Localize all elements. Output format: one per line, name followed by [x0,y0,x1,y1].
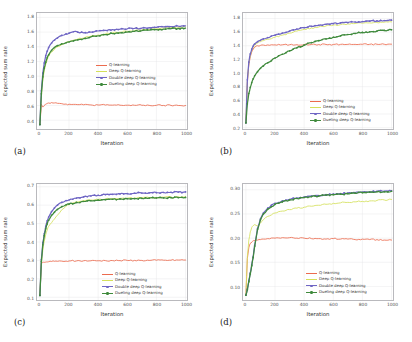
y-tick-label: 0.15 [210,260,240,265]
x-axis-label: Iteration [242,140,394,146]
panel-a: Expected sum rate0.40.60.81.01.21.41.61.… [0,0,206,171]
y-tick-label: 1.6 [210,29,240,34]
x-tick-label: 0 [244,302,247,307]
legend-label: Dueling deep Q-learning [323,117,371,123]
x-tick-label: 1000 [387,131,398,136]
x-axis-label: Iteration [242,311,394,317]
y-tick-label: 0.30 [210,186,240,191]
y-tick-label: 1.8 [210,15,240,20]
series-line-q-learning [40,103,186,125]
y-tick-label: 0.4 [4,240,34,245]
x-tick-label: 0 [38,302,41,307]
x-tick-label: 200 [64,302,72,307]
y-tick-label: 0.4 [210,112,240,117]
x-tick-label: 800 [359,131,367,136]
panel-letter: (b) [220,146,232,156]
plot-a: Expected sum rate0.40.60.81.01.21.41.61.… [0,0,206,171]
legend-item: Dueling deep Q-learning [306,289,367,295]
legend-item: Dueling deep Q-learning [310,117,371,123]
y-tick-label: 0.10 [210,285,240,290]
legend-label: Dueling deep Q-learning [319,289,367,295]
y-axis-ticks: 0.10.20.30.40.50.60.7 [0,183,34,301]
legend: Q-learningDeep Q-learningDouble deep Q-l… [306,270,367,296]
x-tick-label: 600 [123,131,131,136]
legend: Q-learningDeep Q-learningDouble deep Q-l… [96,62,157,88]
y-tick-label: 1.0 [4,74,34,79]
legend-swatch-icon [306,289,317,295]
legend: Q-learningDeep Q-learningDouble deep Q-l… [310,98,371,124]
y-tick-label: 1.0 [210,71,240,76]
y-tick-label: 0.25 [210,211,240,216]
x-tick-label: 200 [64,131,72,136]
x-tick-label: 800 [153,131,161,136]
y-axis-ticks: 0.20.40.60.81.01.21.41.61.8 [206,12,240,130]
x-tick-label: 800 [359,302,367,307]
y-tick-label: 0.20 [210,236,240,241]
legend-label: Dueling deep Q-learning [115,290,163,296]
plot-b: Expected sum rate0.20.40.60.81.01.21.41.… [206,0,412,171]
panel-c: Expected sum rate0.10.20.30.40.50.60.702… [0,171,206,342]
y-axis-ticks: 0.100.150.200.250.30 [206,183,240,301]
x-tick-label: 600 [329,131,337,136]
y-tick-label: 1.2 [4,59,34,64]
panel-d: Expected sum rate0.100.150.200.250.30020… [206,171,412,342]
legend-item: Dueling deep Q-learning [96,81,157,87]
x-axis-label: Iteration [36,311,188,317]
panel-letter: (d) [220,317,232,327]
x-axis-ticks: 02004006008001000 [242,302,394,310]
x-tick-label: 1000 [181,302,192,307]
y-tick-label: 0.2 [4,277,34,282]
y-tick-label: 0.4 [4,119,34,124]
y-tick-label: 0.6 [4,104,34,109]
x-tick-label: 400 [300,302,308,307]
panel-letter: (c) [14,317,25,327]
x-tick-label: 400 [300,131,308,136]
x-axis-ticks: 02004006008001000 [36,131,188,139]
x-axis-ticks: 02004006008001000 [36,302,188,310]
y-tick-label: 1.4 [210,43,240,48]
x-tick-label: 200 [270,131,278,136]
x-axis-ticks: 02004006008001000 [242,131,394,139]
y-tick-label: 0.6 [4,202,34,207]
y-tick-label: 0.8 [210,84,240,89]
plot-d: Expected sum rate0.100.150.200.250.30020… [206,171,412,342]
x-tick-label: 400 [94,302,102,307]
figure-root: Expected sum rate0.40.60.81.01.21.41.61.… [0,0,412,342]
x-tick-label: 1000 [387,302,398,307]
y-axis-ticks: 0.40.60.81.01.21.41.61.8 [0,12,34,130]
x-tick-label: 400 [94,131,102,136]
x-tick-label: 800 [153,302,161,307]
y-tick-label: 0.8 [4,89,34,94]
x-tick-label: 600 [329,302,337,307]
y-tick-label: 0.2 [210,126,240,131]
x-tick-label: 200 [270,302,278,307]
y-tick-label: 1.4 [4,44,34,49]
x-axis-label: Iteration [36,140,188,146]
y-tick-label: 0.5 [4,221,34,226]
panel-b: Expected sum rate0.20.40.60.81.01.21.41.… [206,0,412,171]
legend-item: Dueling deep Q-learning [102,290,163,296]
x-tick-label: 1000 [181,131,192,136]
legend-label: Dueling deep Q-learning [109,81,157,87]
plot-c: Expected sum rate0.10.20.30.40.50.60.702… [0,171,206,342]
y-tick-label: 0.3 [4,258,34,263]
legend: Q-learningDeep Q-learningDouble deep Q-l… [102,271,163,297]
x-tick-label: 600 [123,302,131,307]
legend-swatch-icon [96,81,107,87]
x-tick-label: 0 [38,131,41,136]
panel-letter: (a) [14,146,26,156]
legend-swatch-icon [102,290,113,296]
y-tick-label: 1.6 [4,29,34,34]
y-tick-label: 1.8 [4,14,34,19]
y-tick-label: 0.7 [4,183,34,188]
y-tick-label: 0.1 [4,296,34,301]
x-tick-label: 0 [244,131,247,136]
legend-swatch-icon [310,117,321,123]
y-tick-label: 1.2 [210,57,240,62]
y-tick-label: 0.6 [210,98,240,103]
